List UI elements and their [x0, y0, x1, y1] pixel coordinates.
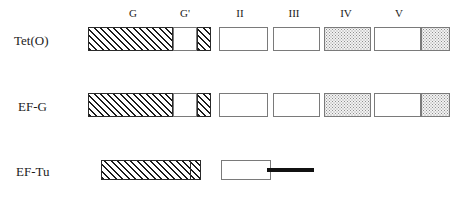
domain-segment-IV	[324, 27, 371, 51]
domain-header-Gprime: G'	[155, 8, 215, 19]
domain-segment-III	[273, 93, 320, 117]
domain-segment-III	[273, 27, 320, 51]
domain-segment-IV	[324, 93, 371, 117]
domain-header-G: G	[103, 8, 163, 19]
domain-segment-Gprime	[197, 93, 211, 117]
domain-segment-G	[173, 93, 197, 117]
domain-segment-G	[101, 160, 201, 180]
domain-segment-Gprime	[197, 27, 211, 51]
domain-segment-G	[173, 27, 197, 51]
domain-segment-II	[219, 93, 268, 117]
protein-label-EF-Tu: EF-Tu	[16, 165, 49, 178]
domain-segment-G	[88, 93, 173, 117]
domain-bar-III	[267, 168, 314, 172]
domain-header-II: II	[210, 8, 270, 19]
domain-segment-G	[88, 27, 173, 51]
domain-header-IV: IV	[316, 8, 376, 19]
domain-header-V: V	[369, 8, 429, 19]
protein-label-TetO: Tet(O)	[14, 34, 48, 47]
domain-segment-V	[421, 93, 450, 117]
domain-segment-V	[421, 27, 450, 51]
domain-segment-V	[374, 93, 421, 117]
domain-divider	[190, 160, 191, 180]
protein-label-EF-G: EF-G	[18, 100, 47, 113]
protein-domain-diagram: GG'IIIIIIVV Tet(O)EF-GEF-Tu	[0, 0, 461, 202]
domain-segment-II	[219, 27, 268, 51]
domain-segment-V	[374, 27, 421, 51]
domain-segment-II	[221, 160, 271, 180]
domain-header-III: III	[264, 8, 324, 19]
